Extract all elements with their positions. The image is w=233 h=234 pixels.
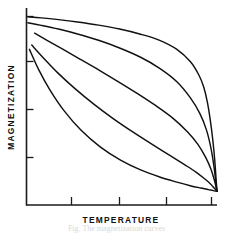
data-curves-group	[28, 17, 217, 191]
data-curve-5	[29, 49, 217, 191]
x-axis-ticks	[72, 197, 212, 205]
data-curve-4	[32, 45, 217, 191]
figure-root: TEMPERATURE MAGNETIZATION Fig. The magne…	[0, 0, 233, 234]
figure-caption-partial: Fig. The magnetization curves	[0, 224, 233, 234]
data-curve-2	[28, 23, 217, 191]
magnetization-temperature-chart: TEMPERATURE MAGNETIZATION	[0, 0, 233, 234]
y-axis-ticks	[27, 17, 34, 158]
y-axis-title: MAGNETIZATION	[6, 64, 16, 149]
data-curve-1	[28, 17, 217, 191]
